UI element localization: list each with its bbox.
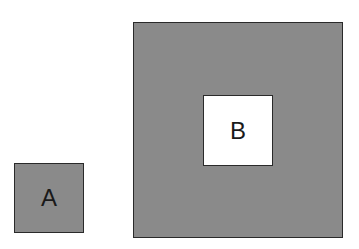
square-b: B bbox=[203, 95, 273, 166]
square-a-label: A bbox=[15, 186, 83, 210]
square-b-label: B bbox=[204, 119, 272, 143]
square-a: A bbox=[14, 163, 84, 233]
